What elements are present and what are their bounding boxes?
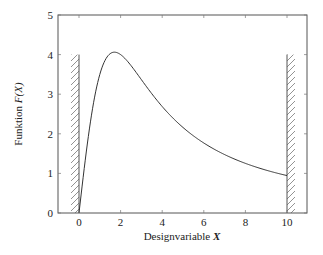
curve-line [79,52,287,213]
x-tick-label: 10 [282,216,294,228]
axis-ticks [58,15,307,213]
x-tick-label: 8 [243,216,249,228]
hatch-region [71,55,79,213]
function-curve [79,52,287,213]
y-tick-label: 5 [48,9,54,21]
x-tick-label: 6 [201,216,207,228]
chart: 0246810 012345 Designvariable X Funktion… [0,0,323,255]
x-tick-labels: 0246810 [76,216,293,228]
x-tick-label: 4 [159,216,165,228]
y-tick-labels: 012345 [48,9,54,219]
y-axis-title: Funktion F(X) [12,82,25,146]
y-tick-label: 4 [48,49,54,61]
constraint-hatches [71,55,295,213]
y-tick-label: 3 [48,88,54,100]
hatch-region [287,55,295,213]
y-tick-label: 2 [48,128,54,140]
plot-frame [58,15,307,213]
y-tick-label: 1 [48,167,54,179]
x-axis-title: Designvariable X [144,230,221,242]
x-tick-label: 0 [76,216,82,228]
x-tick-label: 2 [118,216,124,228]
y-tick-label: 0 [48,207,54,219]
